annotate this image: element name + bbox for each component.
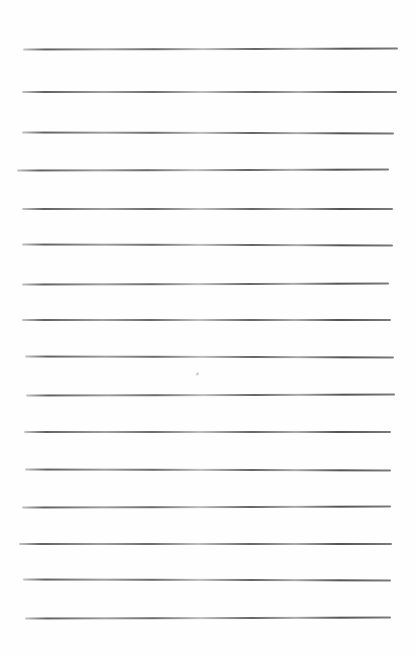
lined-paper-page <box>0 0 416 655</box>
ruled-line <box>22 208 393 210</box>
ruled-line <box>19 543 392 545</box>
ruled-line <box>25 617 391 620</box>
scan-speck <box>196 372 200 375</box>
ruled-line <box>23 48 398 51</box>
ruled-line <box>25 469 391 472</box>
ruled-line <box>17 169 389 172</box>
ruled-line <box>25 356 394 359</box>
ruled-line <box>26 394 395 397</box>
ruled-line <box>23 579 391 582</box>
ruled-line <box>22 283 389 286</box>
ruled-line <box>22 132 394 135</box>
ruled-line <box>22 506 391 509</box>
ruled-line <box>22 91 397 93</box>
ruled-line <box>22 244 393 247</box>
ruled-line <box>24 431 391 433</box>
ruled-line <box>22 319 391 321</box>
